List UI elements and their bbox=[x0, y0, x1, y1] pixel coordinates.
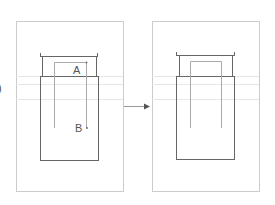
cap-shape bbox=[40, 53, 98, 77]
inner-path bbox=[55, 63, 87, 129]
point-a-marker bbox=[86, 62, 88, 64]
transform-arrow bbox=[124, 104, 150, 110]
body-shape bbox=[41, 77, 99, 161]
body-shape bbox=[177, 77, 235, 160]
guide-lines bbox=[152, 77, 259, 100]
panel-frame bbox=[17, 22, 124, 192]
guide-lines bbox=[16, 77, 123, 100]
point-b-marker bbox=[86, 127, 88, 129]
panel-frame bbox=[153, 22, 260, 192]
diagram-canvas: ) A B bbox=[0, 0, 275, 205]
label-a: A bbox=[73, 64, 81, 76]
margin-mark: ) bbox=[0, 82, 2, 94]
arrowhead-icon bbox=[144, 104, 150, 110]
cap-shape bbox=[176, 52, 235, 77]
panel-after bbox=[152, 22, 260, 192]
label-b: B bbox=[75, 122, 82, 134]
inner-path bbox=[191, 62, 222, 129]
panel-before: A B bbox=[16, 22, 124, 192]
